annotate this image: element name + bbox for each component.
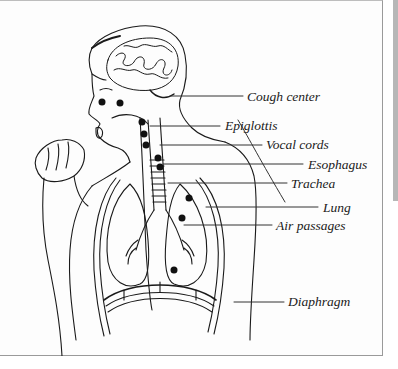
side-scroll-strip <box>393 0 398 201</box>
diaphragm <box>104 282 216 312</box>
label-vocal-cords: Vocal cords <box>266 138 329 152</box>
fist <box>35 139 88 356</box>
head-outline <box>89 26 225 186</box>
label-cough-center: Cough center <box>247 90 320 104</box>
label-air-passages: Air passages <box>276 219 345 233</box>
label-epiglottis: Epiglottis <box>225 119 278 133</box>
label-lung: Lung <box>323 201 351 215</box>
brain <box>107 38 179 97</box>
label-trachea: Trachea <box>291 177 335 191</box>
label-esophagus: Esophagus <box>308 158 367 172</box>
label-diaphragm: Diaphragm <box>288 295 350 309</box>
